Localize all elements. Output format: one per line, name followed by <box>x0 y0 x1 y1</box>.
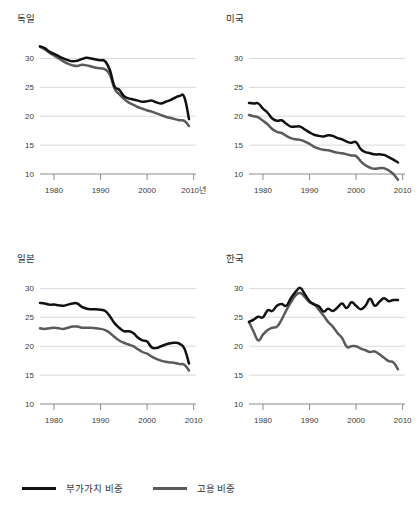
x-tick-label: 1990 <box>92 416 110 425</box>
plot-svg-germany: 10152025301980199020002010년 <box>0 0 209 240</box>
legend-item-value-added: 부가가치 비중 <box>22 484 123 494</box>
y-tick-label: 15 <box>234 371 243 380</box>
y-tick-label: 30 <box>234 284 243 293</box>
x-tick-label: 1980 <box>45 416 63 425</box>
plot-area-japan: 10152025301980199020002010 <box>0 240 209 462</box>
panel-usa: 미국 10152025301980199020002010 <box>209 0 418 240</box>
x-tick-label: 1980 <box>45 186 63 195</box>
y-tick-label: 10 <box>25 400 34 409</box>
x-tick-label: 1990 <box>301 416 319 425</box>
y-tick-label: 20 <box>234 342 243 351</box>
x-tick-label: 2000 <box>138 186 156 195</box>
y-tick-label: 15 <box>25 141 34 150</box>
x-tick-label: 1990 <box>301 186 319 195</box>
panel-germany: 독일 10152025301980199020002010년 <box>0 0 209 240</box>
plot-area-korea: 10152025301980199020002010 <box>209 240 418 462</box>
y-tick-label: 20 <box>25 342 34 351</box>
y-tick-label: 15 <box>234 141 243 150</box>
x-tick-label: 2010년 <box>181 185 206 195</box>
y-tick-label: 10 <box>25 170 34 179</box>
y-tick-label: 10 <box>234 400 243 409</box>
y-tick-label: 30 <box>234 54 243 63</box>
x-tick-label: 2000 <box>138 416 156 425</box>
x-tick-label: 2010 <box>394 186 412 195</box>
series-line-value-added <box>40 46 189 119</box>
x-tick-label: 2000 <box>347 416 365 425</box>
y-tick-label: 10 <box>234 170 243 179</box>
panel-grid: 독일 10152025301980199020002010년 미국 101520… <box>0 0 418 462</box>
plot-area-usa: 10152025301980199020002010 <box>209 0 418 240</box>
multi-panel-line-chart-figure: 독일 10152025301980199020002010년 미국 101520… <box>0 0 418 508</box>
series-line-value-added <box>249 103 398 163</box>
x-tick-label: 2010 <box>185 416 203 425</box>
y-tick-label: 30 <box>25 284 34 293</box>
x-tick-label: 2010 <box>394 416 412 425</box>
y-tick-label: 25 <box>25 83 34 92</box>
line-swatch-icon-employment <box>153 487 187 490</box>
y-tick-label: 25 <box>234 313 243 322</box>
series-line-employment <box>249 115 398 180</box>
y-tick-label: 30 <box>25 54 34 63</box>
panel-japan: 일본 10152025301980199020002010 <box>0 240 209 462</box>
plot-svg-usa: 10152025301980199020002010 <box>209 0 418 240</box>
y-tick-label: 15 <box>25 371 34 380</box>
y-tick-label: 25 <box>234 83 243 92</box>
legend-row: 부가가치 비중 고용 비중 <box>22 484 265 494</box>
plot-area-germany: 10152025301980199020002010년 <box>0 0 209 240</box>
x-tick-label: 1980 <box>254 186 272 195</box>
series-line-employment <box>40 326 189 370</box>
panel-korea: 한국 10152025301980199020002010 <box>209 240 418 462</box>
series-line-value-added <box>40 303 189 364</box>
legend-label-employment: 고용 비중 <box>197 484 236 494</box>
plot-svg-korea: 10152025301980199020002010 <box>209 240 418 462</box>
x-tick-label: 1980 <box>254 416 272 425</box>
line-swatch-icon-value-added <box>22 487 56 490</box>
legend-label-value-added: 부가가치 비중 <box>66 484 123 494</box>
y-tick-label: 20 <box>25 112 34 121</box>
x-tick-label: 1990 <box>92 186 110 195</box>
chart-legend: 부가가치 비중 고용 비중 <box>0 470 418 508</box>
legend-item-employment: 고용 비중 <box>153 484 236 494</box>
plot-svg-japan: 10152025301980199020002010 <box>0 240 209 462</box>
y-tick-label: 25 <box>25 313 34 322</box>
y-tick-label: 20 <box>234 112 243 121</box>
x-tick-label: 2000 <box>347 186 365 195</box>
